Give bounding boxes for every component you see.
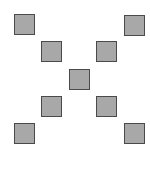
square-top-left [14,14,35,35]
square-lower-mid-left [41,96,62,117]
square-upper-mid-left [41,41,62,62]
square-bottom-right [124,123,145,144]
square-bottom-left [14,123,35,144]
square-upper-mid-right [96,41,117,62]
square-top-right [124,15,145,36]
square-center [69,69,90,90]
square-lower-mid-right [96,96,117,117]
